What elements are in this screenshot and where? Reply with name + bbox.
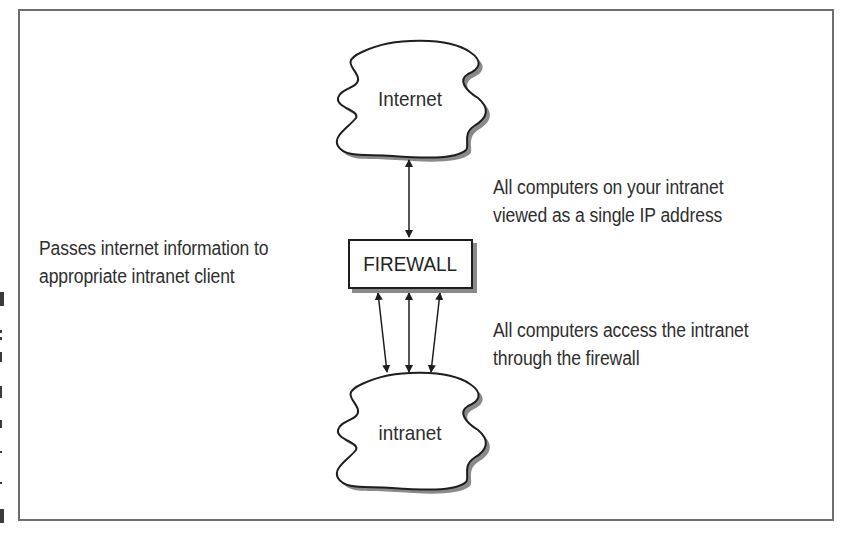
firewall-intranet-arrow-right	[431, 293, 440, 372]
annotation-line: All computers access the intranet	[493, 316, 749, 344]
annotation-line: through the firewall	[493, 344, 749, 372]
annotation-line: All computers on your intranet	[493, 173, 723, 201]
annotation-left-firewall: Passes internet information to appropria…	[39, 234, 268, 290]
annotation-right-upper: All computers on your intranet viewed as…	[493, 173, 723, 229]
internet-label: Internet	[378, 87, 442, 111]
annotation-line: viewed as a single IP address	[493, 201, 723, 229]
intranet-label: intranet	[378, 421, 441, 445]
firewall-box: FIREWALL	[348, 239, 473, 289]
firewall-label: FIREWALL	[364, 252, 458, 276]
firewall-intranet-arrow-left	[378, 293, 387, 372]
annotation-line: appropriate intranet client	[39, 262, 268, 290]
annotation-right-lower: All computers access the intranet throug…	[493, 316, 749, 372]
annotation-line: Passes internet information to	[39, 234, 268, 262]
